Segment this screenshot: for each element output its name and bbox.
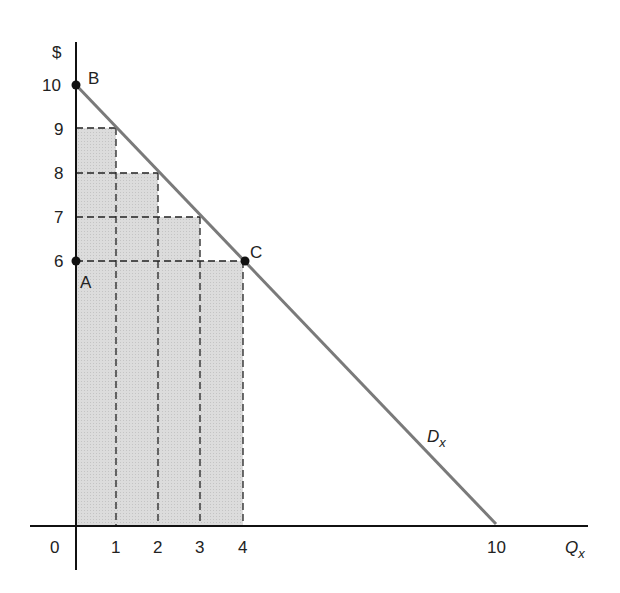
x-tick-4: 4 <box>238 538 247 557</box>
y-tick-9: 9 <box>54 120 63 139</box>
point-b <box>72 81 81 90</box>
x-tick-1: 1 <box>111 538 120 557</box>
x-tick-3: 3 <box>195 538 204 557</box>
curve-label: Dx <box>427 427 446 450</box>
y-tick-6: 6 <box>54 252 63 271</box>
x-axis-label: Qx <box>565 538 585 561</box>
shaded-area <box>76 128 243 526</box>
y-tick-8: 8 <box>54 164 63 183</box>
demand-chart: $ 10 9 8 7 6 B A C 0 1 2 3 4 10 Qx Dx <box>0 0 620 593</box>
x-tick-2: 2 <box>153 538 162 557</box>
y-tick-7: 7 <box>54 208 63 227</box>
point-a <box>72 257 81 266</box>
label-c: C <box>250 243 262 262</box>
x-tick-0: 0 <box>50 538 59 557</box>
label-b: B <box>88 69 99 88</box>
y-axis-label: $ <box>52 43 62 62</box>
label-a: A <box>80 273 92 292</box>
point-c <box>241 257 250 266</box>
x-tick-10: 10 <box>487 538 506 557</box>
y-tick-10: 10 <box>42 76 61 95</box>
